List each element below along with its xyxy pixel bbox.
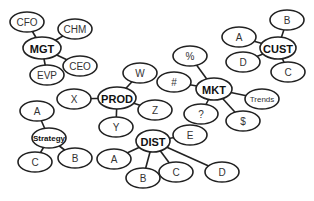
node-evp[interactable]: EVP <box>30 65 64 85</box>
node-label: % <box>186 51 195 62</box>
node-w[interactable]: W <box>123 63 157 83</box>
node-label: A <box>111 154 118 165</box>
node-dist-d[interactable]: D <box>205 162 239 182</box>
node-x[interactable]: X <box>57 89 91 109</box>
node-ceo[interactable]: CEO <box>63 56 97 76</box>
node-strat-b[interactable]: B <box>58 148 92 168</box>
mind-map-diagram: MGTCFOCHMCEOEVPPRODXWZYStrategyABCDISTEA… <box>0 0 314 201</box>
node-chm[interactable]: CHM <box>58 19 92 39</box>
node-label: MGT <box>30 43 55 55</box>
node-label: ? <box>198 109 204 120</box>
node-label: Y <box>113 122 120 133</box>
node-dist[interactable]: DIST <box>136 130 170 152</box>
node-label: CHM <box>64 24 87 35</box>
node-layer: MGTCFOCHMCEOEVPPRODXWZYStrategyABCDISTEA… <box>10 10 305 188</box>
node-cust[interactable]: CUST <box>260 37 296 59</box>
node-strategy[interactable]: Strategy <box>32 128 66 148</box>
node-trends[interactable]: Trends <box>245 89 279 109</box>
node-dist-b[interactable]: B <box>126 168 160 188</box>
node-label: X <box>71 94 78 105</box>
node-label: C <box>284 67 291 78</box>
node-label: CFO <box>16 17 37 28</box>
node-cfo[interactable]: CFO <box>10 12 44 32</box>
node-strat-c[interactable]: C <box>18 152 52 172</box>
node-cust-b[interactable]: B <box>270 10 304 30</box>
node-label: C <box>172 167 179 178</box>
node-label: E <box>187 130 194 141</box>
node-dist-c[interactable]: C <box>159 162 193 182</box>
node-label: W <box>135 68 145 79</box>
node-label: Trends <box>250 95 275 104</box>
node-label: B <box>140 173 147 184</box>
node-label: $ <box>240 116 246 127</box>
node-hash[interactable]: # <box>157 72 191 92</box>
node-z[interactable]: Z <box>138 100 172 120</box>
node-cust-d[interactable]: D <box>226 52 260 72</box>
node-label: D <box>218 167 225 178</box>
node-cust-c[interactable]: C <box>271 62 305 82</box>
node-label: A <box>34 106 41 117</box>
node-strat-a[interactable]: A <box>20 101 54 121</box>
node-pct[interactable]: % <box>173 46 207 66</box>
node-label: EVP <box>37 70 57 81</box>
node-label: CEO <box>69 61 91 72</box>
node-label: Z <box>152 105 158 116</box>
node-label: D <box>239 57 246 68</box>
node-label: # <box>171 77 177 88</box>
node-label: C <box>31 157 38 168</box>
node-dollar[interactable]: $ <box>226 111 260 131</box>
node-prod[interactable]: PROD <box>98 87 136 109</box>
node-cust-a[interactable]: A <box>222 27 256 47</box>
node-label: B <box>284 15 291 26</box>
node-mgt[interactable]: MGT <box>23 37 61 59</box>
node-dist-a[interactable]: A <box>97 149 131 169</box>
node-mkt[interactable]: MKT <box>196 78 232 100</box>
node-label: DIST <box>140 136 165 148</box>
node-label: PROD <box>101 93 133 105</box>
node-label: Strategy <box>33 134 66 143</box>
node-label: A <box>236 32 243 43</box>
node-y[interactable]: Y <box>99 117 133 137</box>
node-label: MKT <box>202 84 226 96</box>
node-question[interactable]: ? <box>184 104 218 124</box>
node-dist-e[interactable]: E <box>173 125 207 145</box>
node-label: B <box>72 153 79 164</box>
node-label: CUST <box>263 43 293 55</box>
